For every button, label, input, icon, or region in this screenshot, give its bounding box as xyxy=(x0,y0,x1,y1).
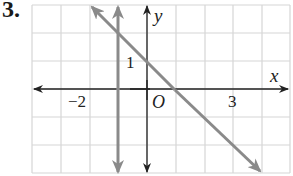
diagonal-line-up xyxy=(92,7,175,90)
y-tick-1: 1 xyxy=(126,53,135,72)
diagonal-line-down xyxy=(175,90,260,171)
x-axis-label: x xyxy=(269,65,279,86)
origin-label: O xyxy=(152,92,165,112)
y-axis-label: y xyxy=(152,5,163,26)
x-tick-3: 3 xyxy=(228,92,237,111)
x-tick-neg2: −2 xyxy=(68,92,86,111)
axes xyxy=(34,6,288,172)
coordinate-plane: y x 1 −2 O 3 xyxy=(0,0,293,176)
